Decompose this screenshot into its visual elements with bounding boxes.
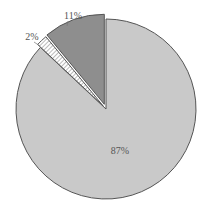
- pie-chart: 87%2%11%: [0, 0, 210, 212]
- pie-slices: [16, 14, 196, 199]
- slice-label: 87%: [111, 145, 129, 156]
- slice-label: 11%: [64, 10, 82, 21]
- slice-label: 2%: [25, 31, 38, 42]
